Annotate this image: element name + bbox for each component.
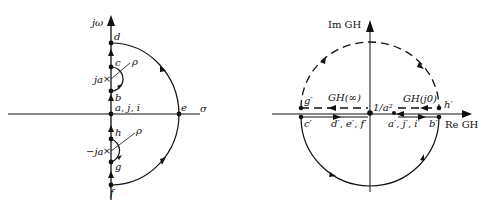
label-rho-top: ρ: [131, 56, 138, 67]
label-gh-inf: GH(∞): [328, 92, 361, 103]
gh-plane-diagram: Im GH Re GH g′ GH(∞) 1/a² GH(j0) h′ c′ d…: [272, 19, 479, 192]
point-c: [109, 65, 114, 70]
label-c: c: [115, 57, 121, 68]
pole-x-top: ×: [103, 73, 111, 84]
pole-x-bottom: ×: [103, 145, 111, 156]
point-g-prime: [299, 106, 304, 111]
point-origin: [367, 110, 373, 116]
label-d: d: [114, 31, 120, 42]
jw-axis-arrow-icon: [107, 15, 115, 26]
arc-arrow-icon: [320, 57, 326, 64]
sigma-axis-label: σ: [200, 103, 208, 114]
label-ja: ja: [92, 74, 103, 85]
label-c-prime: c′: [304, 118, 313, 129]
label-aji: a, j, i: [115, 102, 140, 113]
re-gh-axis-label: Re GH: [445, 119, 479, 130]
axis-arrow-icon: [108, 171, 114, 178]
label-e: e: [181, 102, 187, 113]
diagram-canvas: × × jω σ d c ja b a, j, i e h −ja g f ρ …: [0, 0, 487, 207]
point-b: [109, 89, 114, 94]
label-gh-j0: GH(j0): [403, 93, 437, 104]
solid-arrow-icon: [396, 111, 404, 117]
label-neg-ja: −ja: [86, 146, 103, 157]
arc-arrow-icon: [160, 157, 166, 165]
label-rho-bottom: ρ: [135, 125, 142, 136]
label-h: h: [115, 127, 121, 138]
axis-arrow-icon: [108, 125, 114, 132]
label-aji-prime: a′, j′, i′: [388, 118, 421, 129]
dashed-arrow-icon: [328, 105, 336, 111]
point-c-prime: [299, 115, 304, 120]
axis-arrow-icon: [108, 49, 114, 56]
re-axis-arrow-icon: [462, 110, 472, 118]
label-one-over-a2: 1/a²: [373, 102, 393, 113]
axis-arrow-icon: [108, 94, 114, 101]
point-h-prime: [437, 106, 442, 111]
point-d: [109, 41, 114, 46]
point-g: [109, 160, 114, 165]
label-f: f: [109, 187, 116, 198]
s-plane-diagram: × × jω σ d c ja b a, j, i e h −ja g f ρ …: [8, 15, 208, 200]
jw-axis-label: jω: [90, 17, 103, 28]
point-h: [109, 137, 114, 142]
label-h-prime: h′: [444, 99, 453, 110]
arc-arrow-icon: [420, 154, 424, 161]
label-def-prime: d′, e′, f′: [331, 118, 367, 129]
arc-arrow-icon: [160, 66, 166, 72]
im-axis-arrow-icon: [366, 20, 374, 32]
point-aji: [109, 112, 114, 117]
im-gh-axis-label: Im GH: [328, 19, 362, 30]
dashed-arrow-icon: [420, 105, 428, 111]
label-b-prime: b′: [429, 118, 438, 129]
label-g: g: [115, 161, 121, 172]
label-g-prime: g′: [304, 95, 313, 106]
